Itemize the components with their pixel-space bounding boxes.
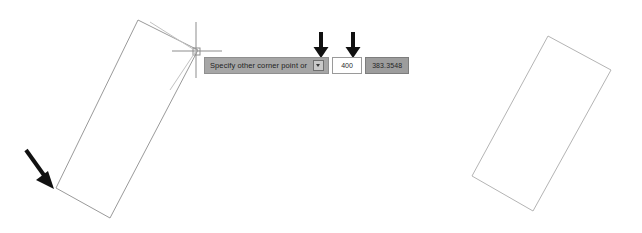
vector-graphics-layer [0, 0, 642, 233]
cad-drawing-canvas[interactable]: Specify other corner point or 400 383.35… [0, 0, 642, 233]
chevron-down-icon[interactable] [313, 60, 324, 71]
y-distance-input[interactable]: 383.3548 [365, 57, 409, 74]
dynamic-input-bar[interactable]: Specify other corner point or 400 383.35… [204, 57, 409, 74]
x-distance-input[interactable]: 400 [332, 57, 362, 74]
crosshair-cursor [150, 22, 222, 90]
rectangle-result [472, 36, 611, 211]
arrow-pointing-to-x-field [314, 32, 329, 58]
command-prompt-tooltip: Specify other corner point or [204, 57, 329, 74]
rectangle-being-drawn [56, 20, 198, 218]
arrow-pointing-to-y-field [346, 32, 361, 58]
arrow-pointing-to-first-corner [26, 150, 54, 189]
command-prompt-text: Specify other corner point or [210, 58, 307, 73]
